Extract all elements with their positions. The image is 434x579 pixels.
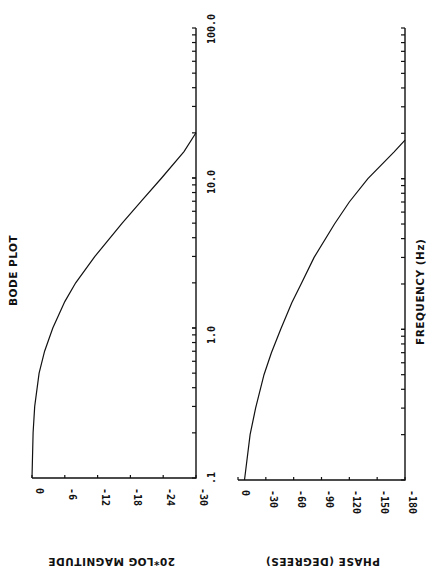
frequency-tick-label: 100.0 bbox=[206, 14, 217, 44]
value-tick-label: -120 bbox=[351, 490, 362, 514]
magnitude-curve bbox=[32, 133, 196, 478]
value-tick-label: -180 bbox=[407, 490, 418, 514]
frequency-tick-label: 10.0 bbox=[206, 170, 217, 194]
value-tick-label: 0 bbox=[34, 488, 45, 494]
frequency-tick-label: 1.0 bbox=[206, 326, 217, 344]
value-tick-label: -24 bbox=[165, 488, 176, 506]
frequency-axis-label: FREQUENCY (Hz) bbox=[414, 239, 426, 345]
bode-plot-svg: BODE PLOT 0-6-12-18-24-30 .11.010.0100.0… bbox=[0, 0, 434, 579]
value-tick-label: -6 bbox=[67, 488, 78, 500]
value-tick-label: -12 bbox=[100, 488, 111, 506]
value-tick-label: 0 bbox=[240, 490, 251, 496]
phase-curve bbox=[245, 140, 406, 480]
phase-axis-label: PHASE (DEGREES) bbox=[265, 556, 380, 568]
phase-tick-labels: 0-30-60-90-120-150-180 bbox=[240, 490, 418, 514]
magnitude-tick-labels: 0-6-12-18-24-30 bbox=[34, 488, 209, 506]
magnitude-axis-label: 20*LOG MAGNITUDE bbox=[48, 556, 175, 568]
value-tick-label: -90 bbox=[324, 490, 335, 508]
phase-plot: 0-30-60-90-120-150-180 PHASE (DEGREES) F… bbox=[238, 28, 426, 568]
magnitude-axis-frame bbox=[32, 28, 196, 478]
value-tick-label: -150 bbox=[379, 490, 390, 514]
chart-title: BODE PLOT bbox=[7, 235, 19, 306]
value-tick-label: -18 bbox=[132, 488, 143, 506]
phase-axis-frame bbox=[238, 28, 405, 480]
bode-plot-figure: BODE PLOT 0-6-12-18-24-30 .11.010.0100.0… bbox=[0, 0, 434, 579]
value-tick-label: -30 bbox=[198, 488, 209, 506]
value-tick-label: -60 bbox=[296, 490, 307, 508]
magnitude-plot: 0-6-12-18-24-30 .11.010.0100.0 20*LOG MA… bbox=[32, 14, 217, 568]
frequency-tick-labels: .11.010.0100.0 bbox=[206, 14, 217, 484]
value-tick-label: -30 bbox=[268, 490, 279, 508]
frequency-tick-label: .1 bbox=[206, 472, 217, 484]
